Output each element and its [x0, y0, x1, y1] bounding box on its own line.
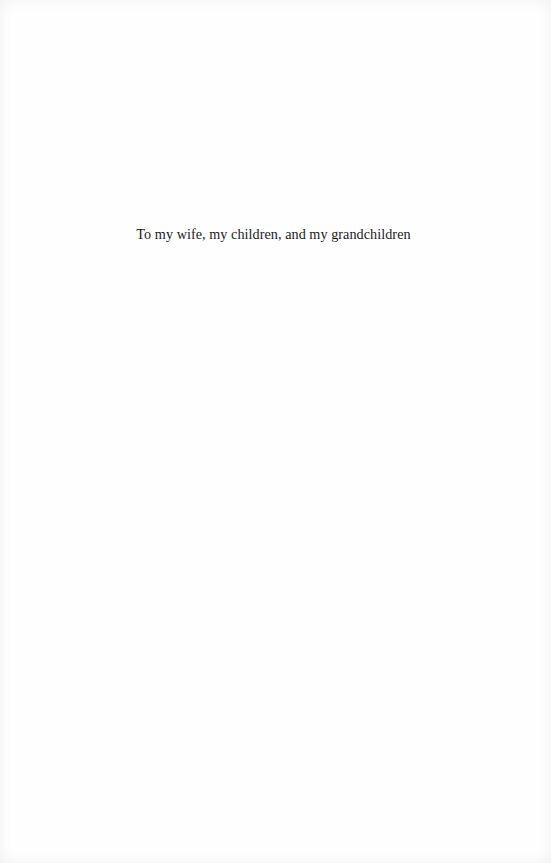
dedication-text: To my wife, my children, and my grandchi… — [0, 226, 551, 243]
document-page: To my wife, my children, and my grandchi… — [0, 0, 551, 863]
